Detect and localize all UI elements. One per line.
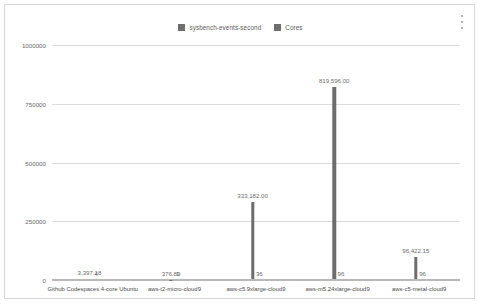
bar-value-label: 96,422.15 xyxy=(402,247,429,254)
y-axis-tick-label: 250000 xyxy=(25,218,46,225)
legend-item[interactable]: sysbench-events-second xyxy=(178,24,261,31)
plot-area: 02500005000007500001000000 3,397.184Gith… xyxy=(52,45,460,280)
legend-item-label: Cores xyxy=(285,24,302,31)
bar-value-label: 1 xyxy=(176,270,179,277)
kebab-dot-2 xyxy=(461,21,463,23)
bar-group: 333,182.0036aws-c5.9xlarge-cloud9 xyxy=(215,45,297,280)
kebab-dot-1 xyxy=(461,15,463,17)
x-axis-category-label: aws-m5.24xlarge-cloud9 xyxy=(306,286,370,292)
x-axis-line xyxy=(52,279,460,280)
bar-value-label: 333,182.00 xyxy=(237,192,268,199)
chart-legend: sysbench-events-secondCores xyxy=(5,24,476,31)
bar-slot[interactable]: 819,596.00 xyxy=(333,87,336,280)
legend-swatch-icon xyxy=(274,24,281,31)
bar-group: 819,596.0096aws-m5.24xlarge-cloud9 xyxy=(297,45,379,280)
y-axis-tick-label: 750000 xyxy=(25,100,46,107)
x-axis-category-label: aws-t2-micro-cloud9 xyxy=(148,286,201,292)
x-axis-category-label: aws-c5.9xlarge-cloud9 xyxy=(227,286,286,292)
bar[interactable] xyxy=(414,257,417,280)
kebab-menu-icon[interactable] xyxy=(457,15,467,29)
x-axis-category-label: aws-c5-metal-cloud9 xyxy=(392,286,446,292)
bar-value-label: 96 xyxy=(338,270,345,277)
legend-swatch-icon xyxy=(178,24,185,31)
bar-group: 96,422.1596aws-c5-metal-cloud9 xyxy=(378,45,460,280)
y-axis-tick-label: 1000000 xyxy=(22,42,46,49)
y-axis-tick-label: 500000 xyxy=(25,159,46,166)
kebab-dot-3 xyxy=(461,27,463,29)
bar-group: 3,397.184Github Codespaces 4-core Ubuntu xyxy=(52,45,134,280)
bar-slot[interactable]: 333,182.00 xyxy=(251,202,254,280)
bar-group: 376.891aws-t2-micro-cloud9 xyxy=(134,45,216,280)
bar[interactable] xyxy=(333,87,336,280)
bar-value-label: 4 xyxy=(94,270,97,277)
gridline xyxy=(52,280,460,281)
y-axis-tick-label: 0 xyxy=(43,277,46,284)
legend-item[interactable]: Cores xyxy=(274,24,302,31)
bar-value-label: 96 xyxy=(419,270,426,277)
bar-slot[interactable]: 96,422.15 xyxy=(414,257,417,280)
bars-layer: 3,397.184Github Codespaces 4-core Ubuntu… xyxy=(52,45,460,280)
legend-item-label: sysbench-events-second xyxy=(189,24,261,31)
bar-value-label: 36 xyxy=(256,270,263,277)
chart-card: sysbench-events-secondCores 025000050000… xyxy=(4,4,475,299)
bar[interactable] xyxy=(251,202,254,280)
x-axis-category-label: Github Codespaces 4-core Ubuntu xyxy=(47,286,138,292)
bar-value-label: 819,596.00 xyxy=(319,77,350,84)
